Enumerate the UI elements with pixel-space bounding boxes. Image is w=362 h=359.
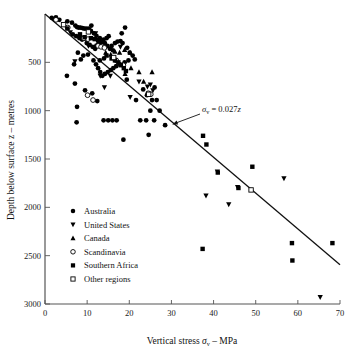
x-tick-label: 0	[43, 308, 47, 318]
x-tick-label: 10	[83, 308, 92, 318]
marker-square-filled	[104, 53, 108, 57]
marker-circle-filled	[83, 88, 88, 93]
annotation-variable: z	[236, 104, 241, 114]
marker-circle-filled	[120, 41, 125, 46]
x-tick-label: 70	[336, 308, 345, 318]
marker-circle-filled	[157, 108, 162, 113]
y-tick-label: 1000	[24, 106, 41, 116]
marker-circle-filled	[114, 118, 119, 123]
marker-square-filled	[71, 263, 75, 267]
marker-circle-filled	[121, 137, 126, 142]
marker-circle-filled	[86, 52, 91, 57]
marker-circle-filled	[163, 123, 168, 128]
marker-circle-filled	[150, 98, 155, 103]
y-tick-label: 2000	[24, 202, 41, 212]
marker-circle-filled	[132, 57, 137, 62]
marker-circle-open	[85, 93, 90, 98]
x-tick-label: 60	[294, 308, 303, 318]
marker-circle-open	[102, 45, 107, 50]
x-axis-title-main: Vertical stress	[147, 336, 200, 346]
marker-circle-filled	[91, 58, 96, 63]
marker-circle-filled	[106, 118, 111, 123]
marker-square-open	[249, 188, 253, 192]
marker-square-open	[86, 30, 90, 34]
marker-circle-filled	[123, 25, 128, 30]
marker-circle-filled	[146, 132, 151, 137]
marker-square-filled	[236, 186, 240, 190]
marker-square-filled	[250, 165, 254, 169]
marker-circle-filled	[124, 77, 129, 82]
marker-circle-filled	[141, 87, 146, 92]
marker-circle-filled	[75, 104, 80, 109]
marker-circle-open	[71, 250, 76, 255]
marker-circle-filled	[144, 118, 149, 123]
chart-container: 010203040506070 50010001500200025003000 …	[0, 0, 362, 359]
marker-square-filled	[124, 69, 128, 73]
marker-circle-filled	[65, 73, 70, 78]
marker-circle-filled	[106, 34, 111, 39]
legend-item-label: Scandinavia	[84, 247, 126, 257]
x-tick-label: 20	[125, 308, 134, 318]
marker-circle-filled	[138, 118, 143, 123]
marker-square-filled	[78, 32, 82, 36]
marker-square-filled	[330, 241, 334, 245]
y-tick-label: 500	[28, 57, 41, 67]
marker-circle-filled	[110, 118, 115, 123]
legend-item-label: United States	[84, 220, 130, 230]
marker-square-filled	[200, 247, 204, 251]
marker-circle-filled	[97, 58, 102, 63]
marker-square-open	[146, 92, 150, 96]
annotation-equation: = 0.027	[209, 104, 237, 114]
legend-item-label: Australia	[84, 206, 115, 216]
marker-circle-filled	[71, 209, 76, 214]
marker-circle-filled	[119, 31, 124, 36]
legend-item-label: Other regions	[84, 274, 131, 284]
marker-square-filled	[204, 142, 208, 146]
marker-circle-filled	[154, 98, 159, 103]
marker-square-filled	[201, 134, 205, 138]
y-tick-label: 3000	[24, 299, 41, 309]
marker-square-open	[61, 22, 65, 26]
marker-square-filled	[82, 35, 86, 39]
marker-circle-filled	[78, 57, 83, 62]
marker-square-open	[111, 55, 115, 59]
marker-circle-open	[91, 98, 96, 103]
x-axis-title: Vertical stress σv – MPa	[147, 336, 238, 347]
marker-square-filled	[89, 36, 93, 40]
marker-circle-filled	[148, 108, 153, 113]
marker-square-filled	[216, 170, 220, 174]
y-tick-label: 2500	[24, 251, 41, 261]
marker-circle-filled	[90, 91, 95, 96]
marker-circle-filled	[89, 23, 94, 28]
y-axis-title: Depth below surface z – metres	[6, 100, 16, 220]
marker-square-filled	[290, 258, 294, 262]
chart-background	[0, 0, 362, 359]
marker-circle-filled	[101, 118, 106, 123]
legend-item-label: Canada	[84, 233, 110, 243]
scatter-plot: 010203040506070 50010001500200025003000 …	[0, 0, 362, 359]
marker-circle-filled	[73, 81, 78, 86]
marker-circle-filled	[134, 98, 139, 103]
x-tick-label: 50	[251, 308, 260, 318]
marker-square-open	[71, 277, 75, 281]
x-tick-label: 40	[209, 308, 218, 318]
marker-circle-open	[54, 17, 59, 22]
marker-circle-filled	[152, 118, 157, 123]
x-axis-title-unit: – MPa	[211, 336, 238, 346]
marker-square-filled	[290, 241, 294, 245]
marker-circle-filled	[75, 50, 80, 55]
x-tick-label: 30	[167, 308, 176, 318]
marker-square-filled	[99, 40, 103, 44]
y-tick-label: 1500	[24, 154, 41, 164]
marker-circle-filled	[74, 120, 79, 125]
legend-item-label: Southern Africa	[84, 260, 138, 270]
